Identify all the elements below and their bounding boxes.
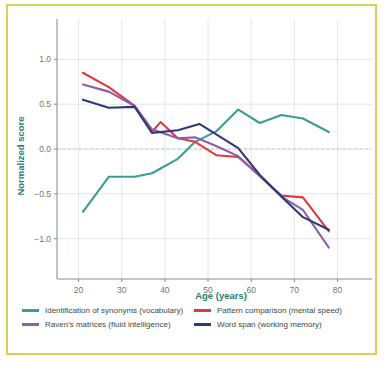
x-tick-label: 40: [160, 285, 170, 295]
x-tick-label: 20: [74, 285, 84, 295]
x-tick-label: 30: [117, 285, 127, 295]
legend-item-vocabulary[interactable]: Identification of synonyms (vocabulary): [22, 306, 194, 315]
legend-label-mental-speed: Pattern comparison (mental speed): [217, 306, 342, 315]
figure-frame: 1.00.50.0−0.5−1.0 20304050607080 Normali…: [6, 4, 377, 355]
legend-label-working-memory: Word span (working memory): [217, 320, 322, 329]
x-tick-label: 70: [290, 285, 300, 295]
legend-item-mental-speed[interactable]: Pattern comparison (mental speed): [194, 306, 366, 315]
legend-row: Identification of synonyms (vocabulary) …: [22, 306, 366, 315]
y-tick-label: 1.0: [39, 54, 51, 64]
series-line-3: [83, 100, 329, 230]
y-tick-label: −0.5: [34, 189, 51, 199]
legend-item-fluid-intelligence[interactable]: Raven's matrices (fluid intelligence): [22, 320, 194, 329]
legend-swatch-vocabulary: [22, 309, 39, 312]
legend-item-working-memory[interactable]: Word span (working memory): [194, 320, 366, 329]
y-tick-labels: 1.00.50.0−0.5−1.0: [34, 54, 51, 243]
y-tick-label: 0.5: [39, 99, 51, 109]
legend-swatch-working-memory: [194, 323, 211, 326]
chart-legend: Identification of synonyms (vocabulary) …: [22, 306, 366, 334]
y-tick-label: 0.0: [39, 144, 51, 154]
x-axis-title: Age (years): [195, 290, 247, 301]
data-series-group: [83, 73, 329, 248]
y-axis-title: Normalized score: [15, 116, 26, 195]
legend-label-vocabulary: Identification of synonyms (vocabulary): [45, 306, 183, 315]
legend-label-fluid-intelligence: Raven's matrices (fluid intelligence): [45, 320, 171, 329]
legend-row: Raven's matrices (fluid intelligence) Wo…: [22, 320, 366, 329]
x-tick-label: 60: [246, 285, 256, 295]
series-line-2: [83, 84, 329, 247]
line-chart: 1.00.50.0−0.5−1.0 20304050607080 Normali…: [8, 6, 375, 306]
y-tick-label: −1.0: [34, 234, 51, 244]
x-tick-label: 80: [333, 285, 343, 295]
legend-swatch-mental-speed: [194, 309, 211, 312]
chart-area: 1.00.50.0−0.5−1.0 20304050607080 Normali…: [8, 6, 375, 353]
legend-swatch-fluid-intelligence: [22, 323, 39, 326]
